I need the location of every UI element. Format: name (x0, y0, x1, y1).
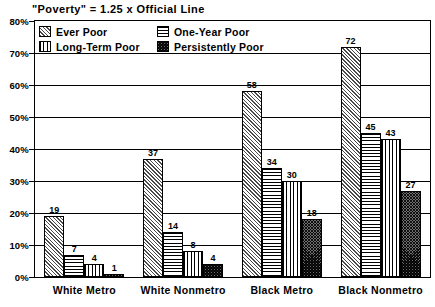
bar-value-label: 14 (168, 221, 178, 231)
bar-slot: 43 (381, 21, 401, 277)
bar-slot: 58 (242, 21, 262, 277)
bar-value-label: 34 (267, 157, 277, 167)
bar: 34 (262, 168, 282, 277)
bar-value-label: 58 (247, 80, 257, 90)
bar: 1 (104, 274, 124, 277)
y-tick-label: 20% (9, 208, 29, 219)
bar-slot: 37 (143, 21, 163, 277)
bar: 37 (143, 159, 163, 277)
bar: 30 (282, 181, 302, 277)
bar: 45 (361, 133, 381, 277)
bar-slot: 8 (183, 21, 203, 277)
bar-value-label: 27 (406, 180, 416, 190)
y-tick-label: 70% (9, 48, 29, 59)
bar-slot: 7 (64, 21, 84, 277)
chart-title: "Poverty" = 1.25 x Official Line (32, 3, 205, 15)
bar-slot: 4 (84, 21, 104, 277)
poverty-bar-chart: "Poverty" = 1.25 x Official Line 0%10%20… (0, 0, 435, 307)
x-tick-label: White Nonmetro (140, 284, 225, 296)
bar-slot: 45 (361, 21, 381, 277)
bar: 4 (84, 264, 104, 277)
bar-value-label: 43 (386, 128, 396, 138)
bar-slot: 1 (104, 21, 124, 277)
y-tick-label: 10% (9, 240, 29, 251)
bar-slot: 34 (262, 21, 282, 277)
bar-value-label: 7 (72, 244, 77, 254)
bar-slot: 19 (44, 21, 64, 277)
bar-group: 72454327 (331, 21, 430, 277)
bar-value-label: 19 (49, 205, 59, 215)
bar-value-label: 8 (191, 240, 196, 250)
y-tick-label: 30% (9, 176, 29, 187)
plot-data-area: 197413714845834301872454327 (35, 21, 430, 277)
bar-value-label: 4 (211, 253, 216, 263)
bar: 58 (242, 91, 262, 277)
y-tick-label: 60% (9, 80, 29, 91)
bar: 43 (381, 139, 401, 277)
bar-group: 19741 (35, 21, 134, 277)
bar: 14 (163, 232, 183, 277)
y-tick-label: 50% (9, 112, 29, 123)
bar-value-label: 72 (346, 36, 356, 46)
bar-slot: 4 (203, 21, 223, 277)
bar-value-label: 45 (366, 122, 376, 132)
bar-value-label: 18 (307, 208, 317, 218)
x-tick-label: White Metro (53, 284, 116, 296)
bar: 27 (401, 191, 421, 277)
bar: 8 (183, 251, 203, 277)
bar: 19 (44, 216, 64, 277)
bar-slot: 30 (282, 21, 302, 277)
bar-group: 58343018 (233, 21, 332, 277)
bar: 4 (203, 264, 223, 277)
y-axis: 0%10%20%30%40%50%60%70%80% (0, 20, 34, 278)
y-tick-label: 40% (9, 144, 29, 155)
bar-value-label: 1 (112, 263, 117, 273)
bar-slot: 72 (341, 21, 361, 277)
x-axis: White MetroWhite NonmetroBlack MetroBlac… (34, 278, 431, 304)
bar: 18 (302, 219, 322, 277)
bar-slot: 18 (302, 21, 322, 277)
x-tick-label: Black Nonmetro (338, 284, 423, 296)
bar-slot: 27 (401, 21, 421, 277)
x-tick-label: Black Metro (250, 284, 313, 296)
y-tick-label: 80% (9, 16, 29, 27)
bar: 7 (64, 255, 84, 277)
bar: 72 (341, 47, 361, 277)
y-tick-label: 0% (15, 272, 29, 283)
bar-value-label: 30 (287, 170, 297, 180)
bar-value-label: 4 (92, 253, 97, 263)
bar-slot: 14 (163, 21, 183, 277)
bar-group: 371484 (134, 21, 233, 277)
bar-value-label: 37 (148, 148, 158, 158)
